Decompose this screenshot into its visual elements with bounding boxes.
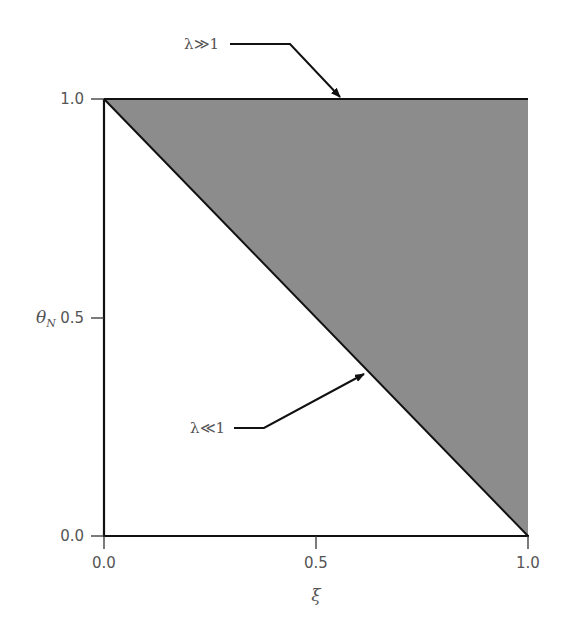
annotation-arrow-lambda-large	[230, 44, 340, 97]
y-tick-label: 0.5	[60, 309, 84, 327]
y-tick-label: 0.0	[60, 527, 84, 545]
x-tick-label: 0.5	[304, 554, 328, 572]
y-axis-label: θN	[36, 307, 56, 330]
annotation-lambda-large: λ≫1	[184, 35, 219, 53]
chart: 1.0 0.5 0.0 0.0 0.5 1.0 ξ θN λ≫1 λ≪1	[0, 0, 563, 631]
y-axis-label-sub: N	[45, 317, 56, 330]
annotation-arrow-lambda-small	[234, 374, 364, 428]
x-tick-label: 0.0	[92, 554, 116, 572]
y-axis-label-main: θ	[36, 307, 46, 327]
annotation-lambda-small: λ≪1	[190, 419, 225, 437]
x-axis-label: ξ	[311, 585, 322, 605]
y-tick-label: 1.0	[60, 90, 84, 108]
x-tick-label: 1.0	[516, 554, 540, 572]
